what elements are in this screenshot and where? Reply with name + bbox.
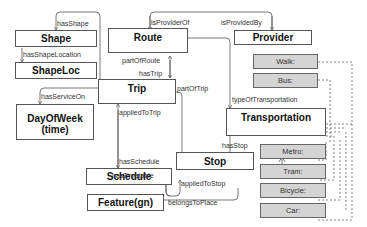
subtype-bus: Bus: <box>253 73 318 88</box>
subtype-metro: Metro: <box>260 144 326 159</box>
subtype-bicycle: Bicycle: <box>260 183 326 198</box>
subtype-tram: Tram: <box>260 164 326 179</box>
subtype-walk: Walk: <box>253 54 318 69</box>
relation-isproviderof: isProviderOf <box>151 19 190 27</box>
relation-hasshape: hasShape <box>57 20 89 28</box>
relation-appliedtotrip: appliedToTrip <box>119 109 161 117</box>
class-label: Feature(gn) <box>98 197 153 208</box>
subtype-label: Metro: <box>282 147 303 156</box>
relation-belongstoplace: belongsToPlace <box>168 199 217 207</box>
relation-hasserviceon: hasServiceOn <box>41 93 85 101</box>
relation-isprovidedby: isProvidedBy <box>221 19 262 27</box>
class-route: Route <box>108 28 188 53</box>
relation-typeoftransportation: typeOfTransportation <box>232 96 298 104</box>
class-label: Trip <box>128 83 146 94</box>
class-trip: Trip <box>98 79 176 104</box>
class-feature: Feature(gn) <box>87 194 164 211</box>
class-dayofweek: DayOfWeek (time) <box>16 104 94 140</box>
subtype-label: Bicycle: <box>280 186 306 195</box>
class-transportation: Transportation <box>226 108 326 136</box>
subtype-label: Car: <box>286 206 300 215</box>
subtype-label: Bus: <box>278 76 293 85</box>
class-provider: Provider <box>234 30 312 45</box>
subtype-label: Walk: <box>276 57 294 66</box>
relation-appliedtostop: appliedToStop <box>181 180 225 188</box>
subtype-car: Car: <box>260 203 326 218</box>
class-label-sub: (time) <box>41 124 68 135</box>
relation-partoftrip: partOfTrip <box>177 85 208 93</box>
subtype-label: Tram: <box>283 167 302 176</box>
class-label: DayOfWeek <box>27 113 82 124</box>
ontology-diagram: Shape ShapeLoc Route Provider Trip DayOf… <box>0 0 367 227</box>
class-label: Route <box>134 32 162 43</box>
relation-hastrip: hasTrip <box>139 70 162 78</box>
class-label: Shape <box>41 33 71 44</box>
class-shape: Shape <box>15 30 97 47</box>
class-label: Transportation <box>241 112 311 123</box>
relation-partofroute: partOfRoute <box>122 57 160 65</box>
class-label: ShapeLoc <box>32 65 80 76</box>
class-label: Provider <box>253 32 294 43</box>
relation-hastimetable: hasTimetable <box>112 172 154 180</box>
class-stop: Stop <box>176 152 254 170</box>
class-label: Stop <box>204 156 226 167</box>
relation-hasshapelocation: hasShapeLocation <box>23 51 81 59</box>
relation-hasstop: hasStop <box>222 142 248 150</box>
relation-hasschedule: hasSchedule <box>119 158 159 166</box>
class-shapeloc: ShapeLoc <box>15 62 97 79</box>
